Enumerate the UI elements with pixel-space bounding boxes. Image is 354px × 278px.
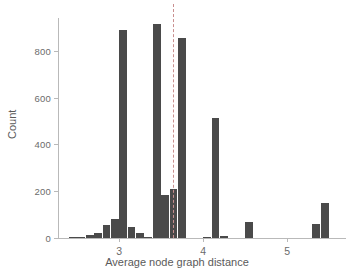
- histogram-bar: [128, 227, 136, 238]
- x-tick-mark: [287, 238, 288, 242]
- histogram-bar: [178, 38, 186, 238]
- histogram-bar: [77, 237, 85, 238]
- y-axis-label: Count: [6, 110, 18, 139]
- x-tick-mark: [119, 238, 120, 242]
- x-axis-label: Average node graph distance: [0, 256, 354, 268]
- y-tick-mark: [54, 98, 58, 99]
- histogram-bar: [144, 237, 152, 238]
- histogram-bar: [111, 219, 119, 238]
- y-tick-label: 200: [35, 186, 51, 197]
- histogram-bar: [69, 237, 77, 238]
- y-tick-label: 800: [35, 45, 51, 56]
- histogram-bar: [161, 195, 169, 238]
- x-axis-line: [58, 238, 346, 239]
- histogram-bar: [86, 235, 94, 238]
- y-tick-label: 400: [35, 139, 51, 150]
- histogram-bar: [321, 203, 329, 238]
- y-axis-line: [58, 18, 59, 238]
- histogram-bar: [212, 118, 220, 238]
- histogram-bar: [220, 236, 228, 238]
- histogram-bar: [103, 225, 111, 238]
- histogram-bar: [153, 24, 161, 238]
- y-tick-label: 600: [35, 92, 51, 103]
- y-tick-mark: [54, 144, 58, 145]
- x-tick-mark: [203, 238, 204, 242]
- y-tick-label: 0: [46, 233, 51, 244]
- reference-line-line: [173, 4, 174, 238]
- y-tick-mark: [54, 191, 58, 192]
- histogram-bar: [245, 222, 253, 238]
- histogram-bar: [119, 30, 127, 238]
- histogram-bar: [203, 237, 211, 238]
- histogram-bar: [312, 224, 320, 239]
- histogram-bar: [136, 233, 144, 238]
- plot-area: 0200400600800 345: [58, 18, 346, 238]
- y-tick-mark: [54, 238, 58, 239]
- histogram-bar: [94, 233, 102, 238]
- y-tick-mark: [54, 51, 58, 52]
- histogram-chart: 0200400600800 345 Count Average node gra…: [0, 0, 354, 278]
